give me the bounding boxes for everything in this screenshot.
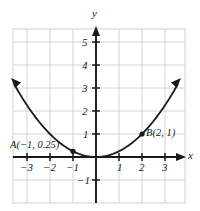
- y-tick-label-4: 4: [82, 60, 88, 71]
- coordinate-plane-svg: [0, 0, 200, 211]
- y-tick-label-3: 3: [82, 83, 88, 94]
- y-tick-label-2: 2: [82, 106, 88, 117]
- y-tick-label-1: 1: [83, 129, 89, 140]
- x-tick-label-3: 3: [162, 162, 168, 173]
- point-b-label: B(2, 1): [146, 128, 175, 139]
- point-a-label: A(−1, 0.25): [10, 140, 59, 151]
- x-tick-label-neg1: −1: [66, 162, 79, 173]
- point-b-marker: [139, 131, 144, 136]
- y-axis-label: y: [92, 8, 97, 19]
- y-tick-label-neg1: −1: [77, 175, 90, 186]
- x-tick-label-neg3: −3: [20, 162, 33, 173]
- x-tick-label-2: 2: [139, 162, 145, 173]
- x-tick-label-1: 1: [117, 162, 123, 173]
- y-tick-label-5: 5: [82, 37, 88, 48]
- point-a-marker: [70, 149, 75, 154]
- x-tick-label-neg2: −2: [43, 162, 56, 173]
- plot-background: [13, 29, 185, 203]
- x-axis-label: x: [188, 150, 193, 161]
- graph-figure: y x 5 4 3 2 1 −1 −3 −2 −1 1 2 3 A(−1, 0.…: [0, 0, 200, 211]
